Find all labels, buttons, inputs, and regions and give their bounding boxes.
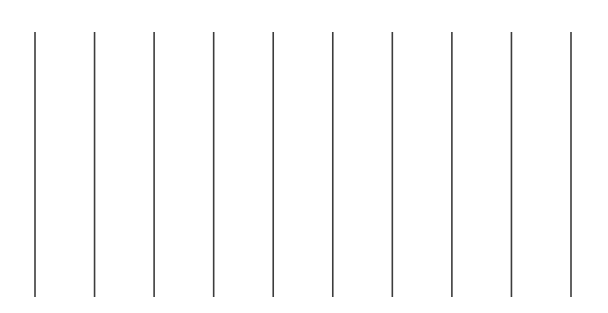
vertical-lines-figure xyxy=(0,0,608,313)
figure-canvas xyxy=(0,0,608,313)
